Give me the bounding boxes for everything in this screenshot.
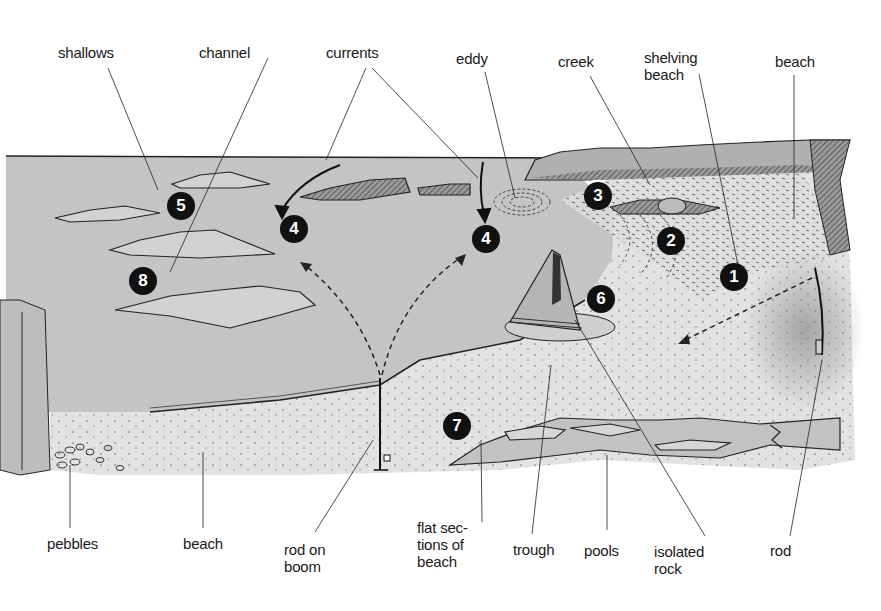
label-rod: rod: [770, 542, 791, 559]
marker-3: 3: [584, 182, 612, 210]
marker-7: 7: [443, 412, 471, 440]
label-shelving-beach: shelving beach: [644, 49, 697, 83]
left-cliff: [0, 300, 50, 475]
marker-5: 5: [167, 192, 195, 220]
label-creek: creek: [558, 53, 594, 70]
label-isolated-rock: isolated rock: [654, 543, 704, 577]
label-shallows: shallows: [58, 44, 114, 61]
marker-1: 1: [720, 263, 748, 291]
label-pools: pools: [584, 542, 619, 559]
marker-6: 6: [587, 285, 615, 313]
marker-8: 8: [129, 267, 157, 295]
label-flat-sections-of-beach: flat sec- tions of beach: [417, 519, 468, 570]
label-rod-on-boom: rod on boom: [284, 541, 325, 575]
label-trough: trough: [513, 541, 554, 558]
marker-2: 2: [657, 227, 685, 255]
label-beach-bottom: beach: [183, 535, 223, 552]
marker-4-right: 4: [472, 225, 500, 253]
label-currents: currents: [326, 44, 379, 61]
label-beach-top: beach: [775, 53, 815, 70]
label-pebbles: pebbles: [47, 535, 98, 552]
label-channel: channel: [199, 44, 250, 61]
beach-fishing-diagram: shallows channel currents eddy creek she…: [0, 0, 881, 611]
marker-4-left: 4: [280, 215, 308, 243]
label-eddy: eddy: [456, 50, 488, 67]
